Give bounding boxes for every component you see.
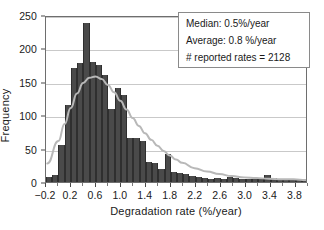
x-tick-mark — [120, 183, 121, 187]
x-tick-label: −0.2 — [34, 189, 55, 201]
x-tick-mark — [245, 183, 246, 187]
y-axis: Frequency 050100150200250 — [0, 16, 45, 183]
x-tick-label: 0.6 — [87, 189, 102, 201]
x-tick-label: 0.2 — [62, 189, 77, 201]
x-tick-label: 1.0 — [112, 189, 127, 201]
y-tick-label: 0 — [31, 177, 37, 189]
x-tick-mark-minor — [232, 183, 233, 186]
x-tick-label: 3.8 — [287, 189, 302, 201]
y-tick-label: 100 — [19, 110, 37, 122]
histogram-figure: Frequency 050100150200250 −0.20.20.61.01… — [0, 0, 324, 230]
x-tick-mark-minor — [182, 183, 183, 186]
x-tick-mark — [195, 183, 196, 187]
y-tick-label: 150 — [19, 77, 37, 89]
x-tick-label: 3.4 — [262, 189, 277, 201]
x-tick-mark-minor — [207, 183, 208, 186]
x-tick-mark-minor — [82, 183, 83, 186]
x-tick-mark — [45, 183, 46, 187]
y-axis-title: Frequency — [0, 32, 13, 199]
x-tick-mark — [295, 183, 296, 187]
x-tick-label: 1.4 — [137, 189, 152, 201]
stat-average: Average: 0.8 %/year — [186, 35, 302, 46]
x-tick-mark-minor — [282, 183, 283, 186]
x-tick-label: 3.0 — [237, 189, 252, 201]
y-tick-label: 50 — [25, 144, 37, 156]
x-tick-mark-minor — [57, 183, 58, 186]
x-tick-mark-minor — [257, 183, 258, 186]
stats-legend-box: Median: 0.5%/year Average: 0.8 %/year # … — [178, 12, 310, 68]
x-tick-label: 2.2 — [187, 189, 202, 201]
x-tick-mark-minor — [307, 183, 308, 186]
x-axis-title: Degradation rate (%/year) — [45, 205, 307, 217]
x-tick-mark — [170, 183, 171, 187]
x-tick-mark — [95, 183, 96, 187]
x-tick-mark-minor — [157, 183, 158, 186]
y-tick-label: 250 — [19, 10, 37, 22]
histogram-bar — [302, 181, 307, 182]
stat-median: Median: 0.5%/year — [186, 18, 302, 29]
y-tick-label: 200 — [19, 43, 37, 55]
x-tick-mark — [145, 183, 146, 187]
x-tick-label: 1.8 — [162, 189, 177, 201]
x-tick-label: 2.6 — [212, 189, 227, 201]
stat-count: # reported rates = 2128 — [186, 52, 302, 63]
x-tick-mark — [220, 183, 221, 187]
x-tick-mark — [70, 183, 71, 187]
x-tick-mark-minor — [107, 183, 108, 186]
x-tick-mark — [270, 183, 271, 187]
x-tick-mark-minor — [132, 183, 133, 186]
